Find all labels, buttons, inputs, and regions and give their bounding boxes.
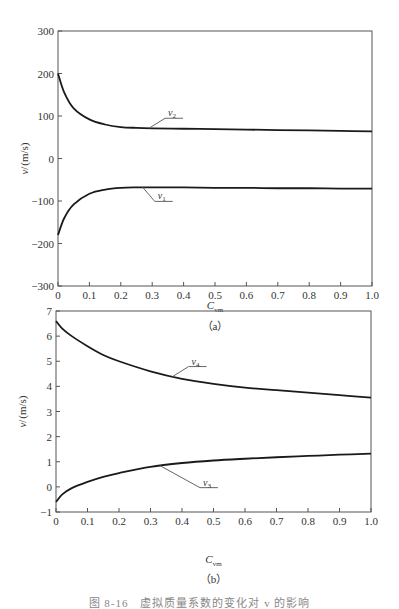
x-tick-label: 0.4 [175, 515, 189, 527]
chart-panel-a: 00.10.20.30.40.50.60.70.80.91.0300200100… [18, 25, 379, 332]
figure: 00.10.20.30.40.50.60.70.80.91.0300200100… [0, 0, 399, 609]
y-tick-label: 5 [47, 355, 53, 367]
plot-frame [58, 31, 372, 286]
x-tick-label: 0.1 [81, 515, 95, 527]
y-tick-label: 0 [47, 481, 53, 493]
x-axis-title: Cvm [205, 553, 222, 568]
x-tick-label: 0.5 [207, 515, 221, 527]
y-tick-label: 6 [47, 330, 53, 342]
y-tick-label: 200 [38, 68, 55, 80]
y-axis-title: v/ (m/s) [16, 395, 29, 427]
x-tick-label: 0 [53, 515, 59, 527]
series-line-v1 [58, 187, 372, 235]
y-tick-label: 100 [38, 110, 55, 122]
series-line-v4 [56, 321, 371, 398]
x-tick-label: 0.2 [114, 289, 128, 301]
y-tick-label: 0 [49, 153, 55, 165]
x-axis-title: Cvm [207, 299, 224, 314]
x-tick-label: 0.6 [240, 289, 254, 301]
x-tick-label: 0 [55, 289, 61, 301]
x-tick-label: 0.6 [238, 515, 252, 527]
x-tick-label: 0.3 [144, 515, 158, 527]
x-tick-label: 0.4 [177, 289, 191, 301]
y-tick-label: 4 [47, 380, 53, 392]
figure-caption: 图 8-16 虚拟质量系数的变化对 v 的影响 [0, 594, 399, 609]
x-tick-label: 0.7 [270, 515, 284, 527]
callout-leader-v2 [149, 118, 183, 128]
x-tick-label: 0.8 [301, 515, 315, 527]
y-tick-label: 7 [47, 305, 53, 317]
y-tick-label: −300 [31, 280, 54, 292]
plot-frame [56, 311, 371, 512]
y-axis-title: v/ (m/s) [18, 142, 31, 174]
x-tick-label: 0.2 [112, 515, 126, 527]
y-tick-label: 2 [47, 431, 53, 443]
callout-leader-v4 [173, 367, 207, 377]
x-tick-label: 1.0 [364, 515, 378, 527]
x-tick-label: 1.0 [365, 289, 379, 301]
y-tick-label: −1 [40, 506, 52, 518]
y-tick-label: −100 [31, 195, 54, 207]
x-tick-label: 0.9 [334, 289, 348, 301]
series-line-v3 [56, 454, 371, 502]
panel-label: （b） [200, 573, 228, 585]
y-tick-label: 1 [47, 456, 53, 468]
x-tick-label: 0.9 [333, 515, 347, 527]
panel-label: （a） [202, 320, 229, 332]
x-tick-label: 0.1 [83, 289, 97, 301]
x-tick-label: 0.8 [302, 289, 316, 301]
y-tick-label: 300 [38, 25, 55, 37]
y-tick-label: −200 [31, 238, 54, 250]
chart-panel-b: 00.10.20.30.40.50.60.70.80.91.076543210−… [16, 305, 378, 585]
series-line-v2 [58, 74, 372, 132]
x-tick-label: 0.3 [145, 289, 159, 301]
x-tick-label: 0.7 [271, 289, 285, 301]
y-tick-label: 3 [47, 406, 53, 418]
